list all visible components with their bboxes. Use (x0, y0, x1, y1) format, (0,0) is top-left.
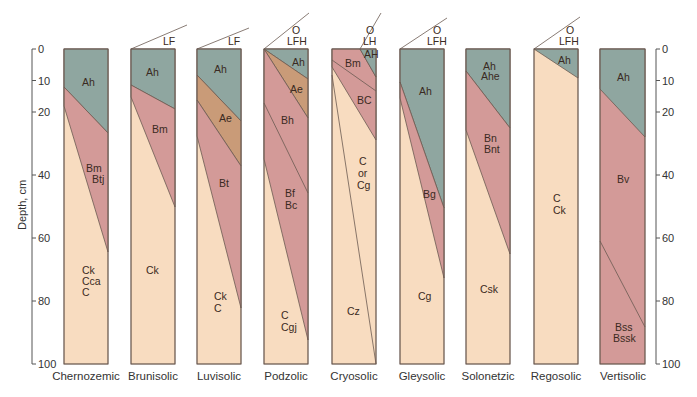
axis-title: Depth, cm (16, 180, 28, 230)
left-tick-80: 80 (38, 295, 50, 307)
surface-label: LH (363, 35, 376, 47)
horizon-label: Ah (292, 56, 305, 68)
right-tick-40: 40 (662, 169, 674, 181)
left-tick-10: 10 (38, 75, 50, 87)
horizon-label: Bssk (613, 332, 637, 344)
horizon-label: Ck (214, 290, 228, 302)
horizon-label: Ah (419, 85, 432, 97)
horizon-label: Cg (357, 179, 371, 191)
profile-vertisolic (600, 49, 645, 364)
horizon-label: C (553, 192, 561, 204)
profile-name-vertisolic: Vertisolic (600, 370, 646, 382)
right-depth-axis (656, 49, 660, 364)
right-tick-100: 100 (662, 358, 680, 370)
right-tick-0: 0 (662, 43, 668, 55)
right-tick-20: 20 (662, 106, 674, 118)
horizon-label: Ae (290, 83, 303, 95)
horizon-label: Cg (418, 290, 432, 302)
profile-name-regosolic: Regosolic (531, 370, 582, 382)
horizon-label: Cz (347, 305, 360, 317)
horizon-label: Bf (285, 187, 295, 199)
horizon-label: Ah (82, 76, 95, 88)
profile-luvisolic (197, 28, 249, 364)
horizon-label: Ah (617, 71, 630, 83)
horizon-label: Ah (214, 63, 227, 75)
horizon-label: Bm (345, 57, 361, 69)
surface-label: LF (228, 35, 240, 47)
surface-label: LFH (559, 35, 579, 47)
profile-name-brunisolic: Brunisolic (128, 370, 178, 382)
horizon-label: Ahe (481, 70, 500, 82)
profile-chernozemic (64, 49, 108, 364)
profile-name-cryosolic: Cryosolic (330, 370, 378, 382)
horizon-label: C (214, 302, 222, 314)
horizon-label: Csk (480, 283, 499, 295)
horizon-label: Ck (146, 264, 160, 276)
right-tick-60: 60 (662, 232, 674, 244)
horizon-label: Bg (423, 188, 436, 200)
horizon-label: Ck (553, 204, 567, 216)
horizon-label: or (358, 167, 368, 179)
left-tick-100: 100 (38, 358, 56, 370)
surface-label: LF (163, 35, 175, 47)
horizon-label: C (82, 286, 90, 298)
horizon-label: C (359, 155, 367, 167)
horizon-label: BC (357, 94, 372, 106)
profile-solonetzic (466, 49, 510, 364)
horizon-label: Bnt (484, 143, 500, 155)
profile-name-gleysolic: Gleysolic (399, 370, 446, 382)
left-depth-axis (32, 49, 36, 364)
left-tick-0: 0 (38, 43, 44, 55)
horizon-label: Cgj (281, 321, 297, 333)
profile-brunisolic (131, 25, 187, 364)
surface-label: LFH (427, 35, 447, 47)
horizon-label: Ah (146, 66, 159, 78)
horizon-label: Bh (281, 114, 294, 126)
horizon-label: AH (364, 48, 379, 60)
profile-regosolic (534, 17, 580, 364)
profile-name-luvisolic: Luvisolic (197, 370, 241, 382)
horizon-label: Btj (92, 173, 104, 185)
horizon-label: Ae (219, 112, 232, 124)
left-tick-20: 20 (38, 106, 50, 118)
right-tick-80: 80 (662, 295, 674, 307)
right-tick-10: 10 (662, 75, 674, 87)
horizon-label: Bm (152, 123, 168, 135)
profile-name-chernozemic: Chernozemic (52, 370, 120, 382)
horizon-label: Bt (219, 177, 229, 189)
left-tick-40: 40 (38, 169, 50, 181)
profile-name-podzolic: Podzolic (264, 370, 308, 382)
left-tick-60: 60 (38, 232, 50, 244)
profile-name-solonetzic: Solonetzic (461, 370, 514, 382)
horizon-label: Bv (617, 173, 630, 185)
horizon-label: Ah (558, 54, 571, 66)
surface-label: LFH (287, 35, 307, 47)
horizon-label: C (281, 309, 289, 321)
horizon-label: Bc (285, 199, 297, 211)
soil-profiles-diagram: 0 10 20 40 60 80 100 Depth, cm 0 10 20 4… (0, 0, 697, 397)
